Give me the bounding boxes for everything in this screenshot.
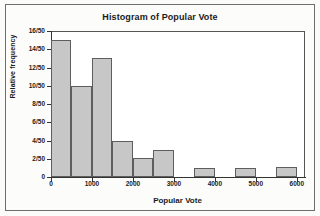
- histogram-bar: [235, 168, 255, 177]
- x-axis-tick-mark: [174, 178, 175, 182]
- y-axis-tick-label: 4/50: [0, 137, 45, 144]
- y-axis-tick-label: 10/50: [0, 82, 45, 89]
- histogram-bar: [112, 141, 132, 178]
- y-axis-tick-label: 6/50: [0, 118, 45, 125]
- histogram-bar: [92, 58, 112, 177]
- x-axis-tick-mark: [215, 178, 216, 182]
- y-axis-tick-label: 0: [0, 173, 45, 180]
- x-axis-tick-mark: [256, 178, 257, 182]
- y-axis-tick-mark: [47, 31, 51, 32]
- histogram-bar: [276, 167, 296, 177]
- x-axis-tick-mark: [133, 178, 134, 182]
- x-axis-line: [51, 177, 306, 178]
- y-axis-tick-label: 16/50: [0, 27, 45, 34]
- y-axis-tick-label: 2/50: [0, 155, 45, 162]
- y-axis-tick-label: 14/50: [0, 45, 45, 52]
- x-axis-tick-mark: [297, 178, 298, 182]
- histogram-bar: [51, 40, 71, 177]
- x-axis-tick-mark: [92, 178, 93, 182]
- x-axis-label: Popular Vote: [50, 196, 305, 205]
- histogram-bar: [71, 86, 91, 177]
- y-axis-tick-label: 8/50: [0, 100, 45, 107]
- y-axis-tick-label: 12/50: [0, 64, 45, 71]
- histogram-figure: Histogram of Popular Vote Relative frequ…: [0, 0, 320, 216]
- histogram-bar: [194, 168, 214, 177]
- histogram-bar: [133, 158, 153, 177]
- x-axis-tick-mark: [51, 178, 52, 182]
- histogram-bar: [153, 150, 173, 177]
